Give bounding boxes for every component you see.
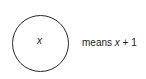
legend-prefix: means — [82, 37, 115, 48]
node-variable-label: x — [37, 35, 42, 46]
legend-text: means x + 1 — [82, 37, 137, 48]
legend-suffix: + 1 — [120, 37, 137, 48]
